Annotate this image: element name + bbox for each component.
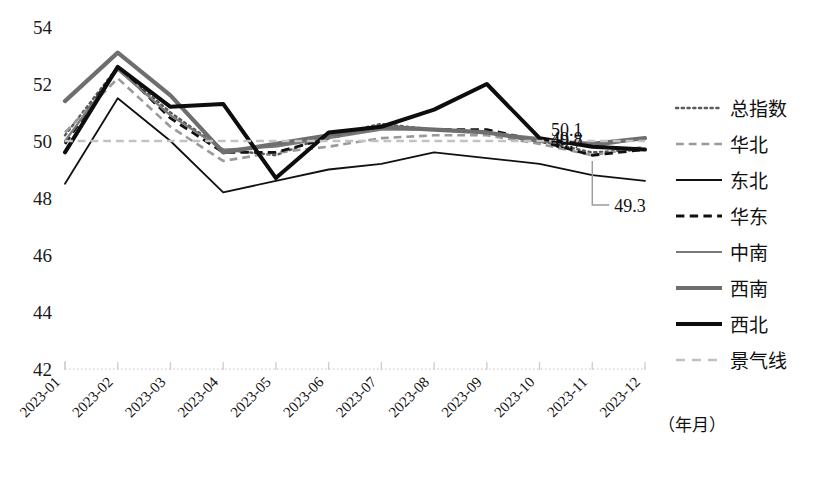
annotation-leader-line xyxy=(592,161,609,205)
line-chart: 424446485052542023-012023-022023-032023-… xyxy=(0,0,819,484)
legend-label[interactable]: 华北 xyxy=(730,134,768,156)
y-axis-tick-label: 54 xyxy=(33,17,53,38)
y-axis-tick-label: 50 xyxy=(33,131,52,152)
x-axis-tick-label: 2023-06 xyxy=(280,373,327,420)
x-axis-tick-label: 2023-09 xyxy=(438,374,485,421)
legend-label[interactable]: 东北 xyxy=(730,170,768,192)
y-axis-tick-label: 46 xyxy=(33,245,52,266)
x-axis-tick-label: 2023-12 xyxy=(596,374,643,421)
x-axis-tick-label: 2023-08 xyxy=(386,374,433,421)
x-axis-tick-label: 2023-04 xyxy=(175,373,222,420)
legend-label[interactable]: 西南 xyxy=(730,278,768,300)
legend-label[interactable]: 总指数 xyxy=(730,98,787,120)
y-axis-tick-label: 44 xyxy=(33,302,53,323)
legend-label[interactable]: 华东 xyxy=(730,206,768,228)
legend-label[interactable]: 景气线 xyxy=(730,350,787,372)
data-label: 49.7 xyxy=(551,132,583,152)
y-axis-tick-label: 52 xyxy=(33,74,52,95)
x-axis-tick-label: 2023-05 xyxy=(227,374,274,421)
x-axis-tick-label: 2023-03 xyxy=(122,374,169,421)
legend-label[interactable]: 西北 xyxy=(730,314,768,336)
y-axis-tick-label: 48 xyxy=(33,188,52,209)
data-label: 49.3 xyxy=(614,196,646,216)
x-axis-tick-label: 2023-07 xyxy=(333,373,380,420)
chart-canvas: 424446485052542023-012023-022023-032023-… xyxy=(0,0,819,484)
x-axis-tick-label: 2023-02 xyxy=(69,374,116,421)
x-axis-tick-label: 2023-01 xyxy=(16,374,63,421)
legend-label[interactable]: 中南 xyxy=(730,242,768,264)
x-axis-tick-label: 2023-11 xyxy=(544,374,590,420)
x-axis-tick-label: 2023-10 xyxy=(491,374,538,421)
x-axis-title: （年月） xyxy=(658,415,726,435)
